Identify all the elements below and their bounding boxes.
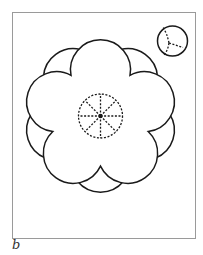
figure-canvas (0, 0, 203, 255)
dashed-spokes (79, 94, 123, 138)
central-dashed-disc (79, 94, 123, 138)
inset-circle (158, 26, 188, 56)
panel-label: b (12, 237, 20, 252)
